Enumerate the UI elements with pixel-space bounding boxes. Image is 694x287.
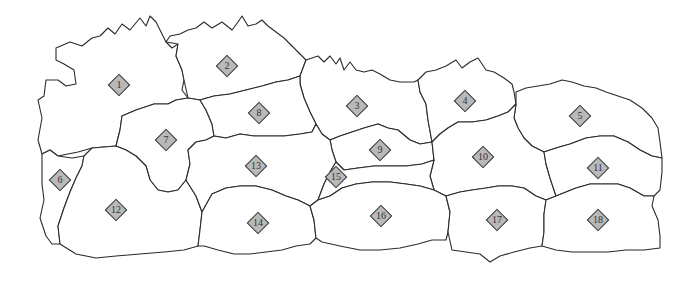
region-number-label: 12 <box>104 203 128 217</box>
region-number-label: 17 <box>485 213 509 227</box>
region-number-label: 10 <box>471 150 495 164</box>
region-number-label: 15 <box>324 170 348 184</box>
region-map <box>0 0 694 287</box>
region-number-label: 9 <box>368 143 392 157</box>
region-number-label: 3 <box>345 99 369 113</box>
region-number-label: 6 <box>48 173 72 187</box>
region-number-label: 1 <box>107 78 131 92</box>
region-number-label: 14 <box>246 216 270 230</box>
region-number-label: 5 <box>568 109 592 123</box>
region-number-label: 4 <box>453 94 477 108</box>
region-number-label: 18 <box>586 213 610 227</box>
region-number-label: 13 <box>244 159 268 173</box>
region-number-label: 8 <box>247 106 271 120</box>
region-number-label: 11 <box>586 161 610 175</box>
region-number-label: 16 <box>369 209 393 223</box>
region-number-label: 2 <box>215 59 239 73</box>
region-number-label: 7 <box>154 133 178 147</box>
